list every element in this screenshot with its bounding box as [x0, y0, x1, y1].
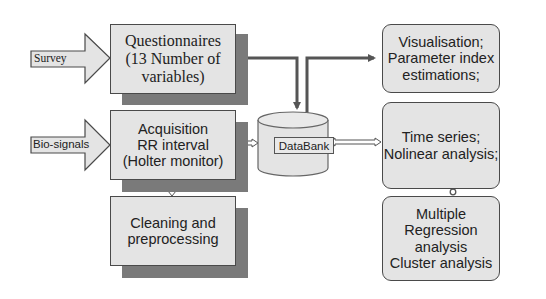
timeseries-regression-connector-icon	[450, 189, 456, 195]
regression-line-2: Regression	[404, 222, 477, 238]
regression-line-3: analysis	[415, 239, 467, 255]
questionnaires-line-1: Questionnaires	[125, 32, 221, 50]
biosignals-label: Bio-signals	[33, 138, 89, 150]
regression-line-4: Cluster analysis	[390, 255, 492, 271]
acquisition-line-1: Acquisition	[138, 121, 208, 137]
visualisation-line-2: Parameter index	[388, 50, 494, 66]
visualisation-line-3: estimations;	[402, 67, 479, 83]
survey-label: Survey	[34, 52, 67, 64]
databank-label: DataBank	[274, 137, 334, 154]
visualisation-line-1: Visualisation;	[398, 34, 483, 50]
acquisition-box: Acquisition RR interval (Holter monitor)	[110, 110, 236, 180]
timeseries-line-2: Nolinear analysis;	[384, 146, 498, 162]
questionnaires-box: Questionnaires (13 Number of variables)	[110, 24, 236, 94]
cleaning-box: Cleaning and preprocessing	[110, 196, 236, 266]
questionnaires-line-2: (13 Number of	[125, 50, 220, 68]
timeseries-box: Time series; Nolinear analysis;	[382, 102, 500, 189]
questionnaires-line-3: variables)	[141, 68, 204, 86]
databank-timeseries-arrow-icon	[329, 138, 381, 146]
workflow-diagram: Survey Bio-signals Questionnaires (13 Nu…	[0, 0, 546, 299]
regression-line-1: Multiple	[416, 206, 466, 222]
acquisition-line-2: RR interval	[137, 137, 209, 153]
acquisition-line-3: (Holter monitor)	[123, 153, 224, 169]
cleaning-line-1: Cleaning and	[130, 215, 215, 231]
regression-box: Multiple Regression analysis Cluster ana…	[382, 196, 500, 281]
cleaning-line-2: preprocessing	[127, 231, 218, 247]
timeseries-line-1: Time series;	[402, 129, 480, 145]
visualisation-box: Visualisation; Parameter index estimatio…	[382, 24, 500, 93]
